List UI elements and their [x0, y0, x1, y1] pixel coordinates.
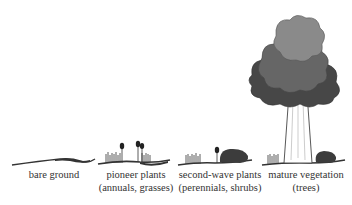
stage-label-line2: (annuals, grasses)	[94, 181, 178, 194]
stage-label-bare-ground: bare ground	[14, 168, 94, 181]
pioneer-plants-illustration	[98, 141, 170, 166]
tree-canopy	[249, 15, 340, 107]
stage-label-line2: (trees)	[262, 181, 350, 194]
stage-label-mature: mature vegetation (trees)	[262, 168, 350, 194]
stage-label-line1: second-wave plants	[176, 168, 264, 181]
stage-label-line1: bare ground	[14, 168, 94, 181]
stage-label-line1: pioneer plants	[94, 168, 178, 181]
second-wave-illustration	[178, 147, 252, 165]
stage-label-line1: mature vegetation	[262, 168, 350, 181]
stage-label-second-wave: second-wave plants (perennials, shrubs)	[176, 168, 264, 194]
bare-ground-illustration	[12, 159, 95, 166]
stage-label-pioneer: pioneer plants (annuals, grasses)	[94, 168, 178, 194]
mature-vegetation-illustration	[249, 15, 345, 165]
stage-label-line2: (perennials, shrubs)	[176, 181, 264, 194]
